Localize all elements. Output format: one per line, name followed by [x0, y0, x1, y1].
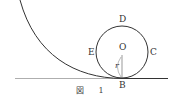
label-b: B — [119, 81, 126, 90]
figure-caption: 図 1 — [76, 84, 110, 95]
curved-ramp — [20, 0, 122, 79]
label-d: D — [119, 15, 126, 24]
label-o: O — [119, 43, 126, 52]
label-e: E — [88, 48, 95, 57]
label-r: r — [115, 61, 119, 70]
label-c: C — [150, 48, 157, 57]
